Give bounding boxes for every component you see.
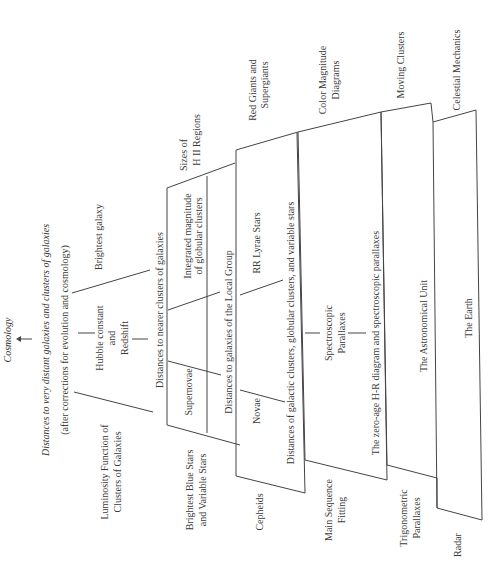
label-cosmology: Cosmology: [2, 317, 13, 363]
label-galactic-clusters: Distances of galactic clusters, globular…: [285, 202, 296, 465]
label-hubble-3: Redshift: [119, 321, 130, 355]
label-local-group: Distances to galaxies of the Local Group: [223, 250, 234, 413]
label-hubble-1: Hubble constant: [94, 305, 105, 370]
label-supernovae: Supernovae: [183, 368, 194, 416]
label-brightest-blue-1: Brightest Blue Stars: [184, 450, 195, 531]
cosmology-arrow-head: [16, 336, 21, 342]
label-main-sequence-2: Fitting: [336, 497, 347, 524]
divider-novae-top: [240, 390, 285, 402]
label-very-distant: Distances to very distant galaxies and c…: [40, 224, 51, 457]
label-zero-age-hr: The zero-age H-R diagram and spectroscop…: [370, 231, 381, 455]
label-trig-2: Parallaxes: [411, 497, 422, 538]
label-hii-1: Sizes of: [178, 138, 189, 171]
label-nearer-clusters: Distances to nearer clusters of galaxies: [154, 232, 165, 388]
label-spectroscopic-2: Parallaxes: [336, 312, 347, 353]
box-earth: [433, 110, 482, 520]
label-color-magnitude-2: Diagrams: [330, 60, 341, 99]
label-integrated-2: of globular clusters: [193, 197, 204, 274]
label-hubble-2: and: [106, 331, 117, 345]
divider-galactic-clusters: [297, 133, 305, 493]
label-the-earth: The Earth: [463, 298, 474, 338]
label-novae: Novae: [251, 397, 262, 424]
connectors: [16, 270, 168, 412]
connector-luminosity: [74, 392, 153, 412]
distance-ladder-diagram: Cosmology Distances to very distant gala…: [0, 0, 490, 573]
label-radar: Radar: [452, 532, 463, 557]
label-luminosity-1: Luminosity Function of: [99, 424, 110, 520]
label-red-giants-1: Red Giants and: [247, 59, 258, 121]
divider-earth-left: [433, 122, 437, 508]
label-luminosity-2: Clusters of Galaxies: [112, 431, 123, 512]
label-integrated-1: Integrated magnitude: [182, 193, 193, 279]
label-corrections: (after corrections for evolution and cos…: [59, 245, 71, 435]
label-brightest-blue-2: and Variable Stars: [197, 454, 208, 527]
label-red-giants-2: Supergiants: [259, 61, 270, 108]
label-celestial-mechanics: Celestial Mechanics: [451, 29, 462, 110]
divider-rrlyrae-bottom: [240, 280, 283, 295]
label-astronomical-unit: The Astronomical Unit: [418, 280, 429, 372]
label-moving-clusters: Moving Clusters: [395, 31, 406, 98]
label-trig-1: Trigonometric: [398, 489, 409, 547]
label-main-sequence-1: Main Sequence: [323, 478, 334, 540]
label-rr-lyrae: RR Lyrae Stars: [251, 212, 262, 273]
divider-integrated-bottom: [168, 292, 220, 310]
divider-supernovae-top: [168, 361, 221, 375]
divider-astronomical-unit: [431, 103, 433, 122]
label-hii-2: H II Regions: [191, 114, 202, 166]
label-color-magnitude-1: Color Magnitude: [317, 45, 328, 114]
label-brightest-galaxy: Brightest galaxy: [93, 204, 104, 270]
label-cepheids: Cepheids: [254, 493, 265, 530]
connector-brightest: [72, 270, 150, 293]
label-spectroscopic-1: Spectroscopic: [323, 304, 334, 361]
